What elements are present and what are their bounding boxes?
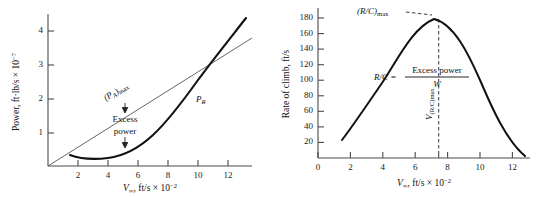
- x-tick-label: 10: [476, 162, 486, 172]
- x-ticks: [78, 160, 228, 166]
- x-tick-label: 4: [381, 162, 386, 172]
- x-tick-label: 6: [413, 162, 418, 172]
- y-tick-label: 4: [39, 25, 44, 35]
- rc-max-leader: [406, 12, 432, 15]
- excess-power-lower-arrow: [122, 137, 127, 148]
- y-axis-title: Rate of climb, ft/s: [281, 49, 291, 118]
- excess-power-label-line1: Excess: [113, 114, 138, 124]
- pa-max: max: [117, 83, 131, 95]
- y-tick-label: 100: [300, 74, 314, 84]
- x-tick-label: 12: [224, 170, 233, 180]
- y-tick-label: 180: [300, 12, 314, 22]
- y-tick-label: 3: [39, 59, 44, 69]
- rate-of-climb-equation: R/C = Excess power W: [373, 65, 469, 89]
- rc-max-label: (R/C)max: [357, 6, 389, 17]
- equation-numerator: Excess power: [412, 65, 462, 75]
- power-curves-chart: 1 2 3 4 2 4 6 8 10 12: [0, 0, 272, 198]
- excess-power-upper-arrow: [122, 103, 127, 113]
- v-rc-max-label: V(R/C)max: [424, 87, 436, 120]
- y-tick-label: 160: [300, 28, 314, 38]
- x-ticks: [318, 152, 512, 158]
- x-tick-label: 12: [508, 162, 517, 172]
- y-tick-label: 60: [304, 105, 314, 115]
- equation-lhs: R/C =: [373, 72, 396, 82]
- x-axis-title: V∞, ft/s × 10−2: [123, 182, 177, 195]
- x-tick-label: 2: [348, 162, 353, 172]
- power-required-curve: [70, 18, 246, 159]
- y-axis-title: Power, ft·lb/s × 10−7: [10, 52, 21, 131]
- x-tick-label: 0: [316, 162, 321, 172]
- y-tick-label: 2: [39, 93, 44, 103]
- power-required-label: PR: [195, 94, 206, 105]
- rate-of-climb-chart: 20 40 60 80 100 120 140 160 180 0 2 4 6: [272, 0, 544, 198]
- y-ticks: [48, 31, 54, 133]
- x-axis-title: V∞, ft/s × 10−2: [397, 177, 451, 190]
- excess-power-label-line2: power: [114, 126, 137, 136]
- y-tick-label: 120: [300, 59, 314, 69]
- panel-power-curves: 1 2 3 4 2 4 6 8 10 12: [0, 0, 272, 198]
- y-tick-label: 20: [304, 136, 314, 146]
- x-tick-label: 6: [136, 170, 141, 180]
- y-ticks: [318, 18, 324, 142]
- x-tick-label: 4: [106, 170, 111, 180]
- power-available-label: (PA)max: [102, 80, 131, 104]
- svg-text:(PA)max: (PA)max: [102, 80, 131, 104]
- equation-denominator: W: [433, 79, 442, 89]
- y-tick-label: 140: [300, 43, 314, 53]
- x-tick-label: 10: [194, 170, 204, 180]
- x-tick-label: 8: [445, 162, 450, 172]
- x-tick-label: 2: [76, 170, 81, 180]
- two-panel-figure: 1 2 3 4 2 4 6 8 10 12: [0, 0, 544, 198]
- y-tick-label: 40: [304, 121, 314, 131]
- y-tick-label: 1: [39, 127, 44, 137]
- panel-rate-of-climb: 20 40 60 80 100 120 140 160 180 0 2 4 6: [272, 0, 544, 198]
- x-tick-label: 8: [166, 170, 171, 180]
- y-tick-label: 80: [304, 90, 314, 100]
- power-available-line: [48, 38, 252, 166]
